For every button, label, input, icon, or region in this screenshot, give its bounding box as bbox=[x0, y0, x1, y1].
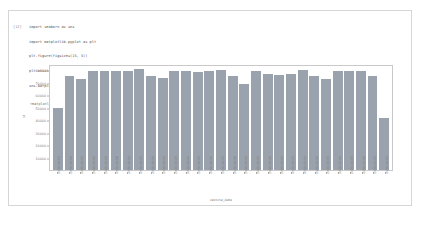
code-text-0: import seaborn as sns bbox=[29, 25, 74, 29]
y-axis: 1000020000300004000050000600007000080000 bbox=[23, 65, 49, 171]
y-tick-label: 60000 bbox=[36, 94, 47, 98]
x-tick-label: 2021-01-14 bbox=[64, 174, 74, 198]
x-tick-label: 2021-02-08 bbox=[357, 174, 367, 198]
x-tick-label: 2021-01-16 bbox=[87, 174, 97, 198]
y-tick-label: 10000 bbox=[36, 157, 47, 161]
x-tick-label: 2021-02-01 bbox=[275, 174, 285, 198]
x-tick-label: 2021-01-28 bbox=[228, 174, 238, 198]
code-text-2: plt.figure(figsize=(15, 5)) bbox=[29, 54, 87, 58]
y-axis-title: id bbox=[22, 115, 26, 118]
x-tick-label: 2021-01-20 bbox=[134, 174, 144, 198]
x-tick-label: 2021-01-31 bbox=[263, 174, 273, 198]
y-tick-label: 80000 bbox=[36, 69, 47, 73]
y-tick-label: 20000 bbox=[36, 144, 47, 148]
x-tick-label: 2021-02-07 bbox=[345, 174, 355, 198]
x-tick-label: 2021-02-04 bbox=[310, 174, 320, 198]
bar-series bbox=[50, 66, 392, 170]
x-tick-label: 2021-02-03 bbox=[298, 174, 308, 198]
bar bbox=[298, 70, 308, 170]
x-tick-label: 2021-01-15 bbox=[75, 174, 85, 198]
x-tick-label: 2021-02-05 bbox=[321, 174, 331, 198]
y-tick-label: 30000 bbox=[36, 132, 47, 136]
x-tick-label: 2021-01-26 bbox=[204, 174, 214, 198]
code-text-1: import matplotlib.pyplot as plt bbox=[29, 40, 96, 44]
x-tick-label: 2021-01-27 bbox=[216, 174, 226, 198]
bar bbox=[134, 69, 144, 170]
x-tick-label: 2021-01-23 bbox=[169, 174, 179, 198]
x-axis-title: vaccine_date bbox=[49, 198, 393, 202]
x-tick-label: 2021-01-18 bbox=[110, 174, 120, 198]
x-tick-label: 2021-01-17 bbox=[99, 174, 109, 198]
y-tick-label: 50000 bbox=[36, 107, 47, 111]
x-tick-label: 2021-01-29 bbox=[239, 174, 249, 198]
y-tick-label: 70000 bbox=[36, 82, 47, 86]
x-tick-label: 2021-01-25 bbox=[193, 174, 203, 198]
x-tick-label: 2021-01-30 bbox=[251, 174, 261, 198]
cell-prompt-label: [12] bbox=[13, 25, 29, 30]
x-tick-label: 2021-01-19 bbox=[122, 174, 132, 198]
x-tick-label: 2021-01-24 bbox=[181, 174, 191, 198]
y-tick-label: 40000 bbox=[36, 119, 47, 123]
notebook-cell[interactable]: [12]import seaborn as sns import matplot… bbox=[8, 10, 412, 206]
x-tick-label: 2021-02-02 bbox=[286, 174, 296, 198]
chart-figure: 1000020000300004000050000600007000080000… bbox=[23, 65, 397, 203]
notebook-screenshot: [12]import seaborn as sns import matplot… bbox=[0, 0, 427, 227]
x-tick-label: 2021-01-13 bbox=[52, 174, 62, 198]
code-line-2: plt.figure(figsize=(15, 5)) bbox=[13, 54, 409, 59]
x-tick-label: 2021-02-10 bbox=[380, 174, 390, 198]
code-line-1: import matplotlib.pyplot as plt bbox=[13, 40, 409, 45]
code-line-0: [12]import seaborn as sns bbox=[13, 25, 409, 30]
x-axis-labels: 2021-01-132021-01-142021-01-152021-01-16… bbox=[49, 174, 393, 198]
x-tick-label: 2021-02-06 bbox=[333, 174, 343, 198]
x-tick-label: 2021-01-21 bbox=[146, 174, 156, 198]
x-tick-label: 2021-01-22 bbox=[157, 174, 167, 198]
x-tick-label: 2021-02-09 bbox=[368, 174, 378, 198]
